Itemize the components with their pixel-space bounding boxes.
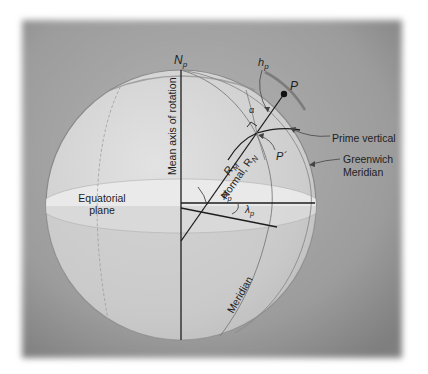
geodetic-diagram: Np Mean axis of rotation hp P α P´ Prime…	[0, 0, 428, 374]
point-p-label: P	[290, 79, 298, 93]
axis-label: Mean axis of rotation	[166, 77, 178, 175]
equatorial-label-line2: plane	[89, 204, 115, 216]
greenwich-label-line2: Meridian	[343, 166, 383, 178]
p-prime-label: P´	[276, 150, 287, 162]
point-p	[281, 91, 287, 97]
prime-vertical-label: Prime vertical	[332, 132, 396, 144]
alpha-label: α	[249, 105, 254, 115]
greenwich-label-line1: Greenwich	[343, 153, 393, 165]
equatorial-label-line1: Equatorial	[78, 192, 125, 204]
